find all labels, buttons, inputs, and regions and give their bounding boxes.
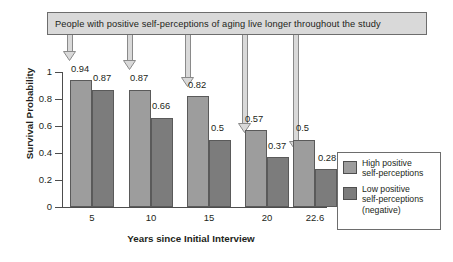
y-tick-mark [55, 207, 62, 208]
bar-high-3 [245, 130, 267, 207]
legend-label-high-line2: self-perceptions [362, 168, 423, 178]
x-axis-line [55, 207, 327, 208]
bar-low-0 [92, 90, 114, 208]
bar-value-high-3: 0.57 [245, 113, 263, 124]
annotation-arrow-1 [63, 35, 76, 61]
legend-swatch-high-icon [343, 161, 357, 174]
bar-low-1 [151, 118, 173, 207]
callout-banner: People with positive self-perceptions of… [47, 12, 427, 35]
y-tick-mark [55, 126, 62, 127]
bar-value-high-4: 0.5 [296, 122, 309, 133]
legend-label-high: High positive self-perceptions [362, 158, 423, 179]
bar-value-low-1: 0.66 [152, 100, 170, 111]
bar-value-high-1: 0.87 [130, 72, 148, 83]
bar-value-low-4: 0.28 [318, 152, 336, 163]
bar-value-low-3: 0.37 [268, 140, 286, 151]
bar-high-4 [293, 140, 315, 208]
bar-high-1 [129, 90, 151, 208]
annotation-arrow-2 [123, 35, 136, 70]
legend-item-high: High positive self-perceptions [343, 158, 436, 179]
legend-item-low: Low positive self-perceptions (negative) [343, 184, 436, 215]
legend-swatch-low-icon [343, 187, 357, 200]
x-tick-label-2: 15 [187, 212, 231, 223]
x-tick-label-1: 10 [129, 212, 173, 223]
y-tick-mark [55, 72, 62, 73]
y-tick-mark [55, 153, 62, 154]
y-tick-mark [55, 180, 62, 181]
x-tick-label-3: 20 [245, 212, 289, 223]
x-axis-title: Years since Initial Interview [55, 233, 327, 244]
callout-banner-text: People with positive self-perceptions of… [55, 19, 381, 29]
legend-label-low: Low positive self-perceptions (negative) [362, 184, 423, 215]
x-tick-label-4: 22.6 [293, 212, 337, 223]
bar-low-3 [267, 157, 289, 207]
legend-label-low-line2: self-perceptions [362, 194, 423, 204]
bar-low-2 [209, 140, 231, 208]
chart-legend: High positive self-perceptions Low posit… [337, 152, 441, 230]
legend-label-low-line1: Low positive [362, 184, 423, 194]
bar-value-high-2: 0.82 [188, 79, 206, 90]
bar-value-high-0: 0.94 [71, 63, 89, 74]
legend-label-low-line3: (negative) [362, 205, 423, 215]
chart-figure: People with positive self-perceptions of… [0, 0, 453, 262]
y-tick-mark [55, 99, 62, 100]
x-tick-label-0: 5 [70, 212, 114, 223]
y-tick-label: 0 [18, 201, 52, 212]
bar-low-4 [315, 169, 337, 207]
bar-high-2 [187, 96, 209, 207]
y-axis-title: Survival Probability [24, 39, 35, 189]
legend-label-high-line1: High positive [362, 158, 423, 168]
bar-value-low-0: 0.87 [93, 72, 111, 83]
bar-value-low-2: 0.5 [211, 122, 224, 133]
bar-high-0 [70, 80, 92, 207]
